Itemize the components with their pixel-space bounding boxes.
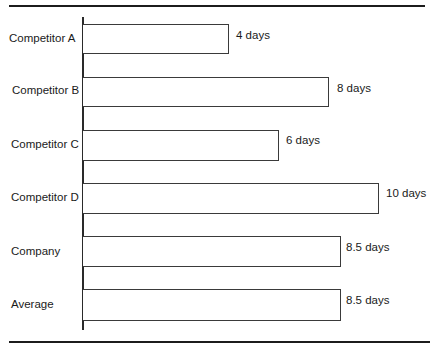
bar-competitor-a <box>83 24 229 54</box>
category-label: Average <box>11 298 54 310</box>
bottom-rule <box>9 341 430 343</box>
bar-competitor-b <box>83 77 329 107</box>
value-label: 6 days <box>286 134 320 146</box>
bar-competitor-c <box>83 130 279 161</box>
value-label: 8 days <box>337 82 371 94</box>
bar-competitor-d <box>83 183 379 214</box>
category-label: Competitor C <box>11 138 79 150</box>
value-label: 8.5 days <box>346 241 389 253</box>
y-axis <box>82 17 84 330</box>
value-label: 10 days <box>386 187 426 199</box>
category-label: Company <box>11 245 60 257</box>
value-label: 8.5 days <box>346 294 389 306</box>
category-label: Competitor A <box>9 32 75 44</box>
top-rule <box>9 5 425 7</box>
bar-average <box>83 289 341 321</box>
category-label: Competitor B <box>12 84 79 96</box>
value-label: 4 days <box>236 29 270 41</box>
category-label: Competitor D <box>11 191 79 203</box>
bar-company <box>83 236 341 267</box>
